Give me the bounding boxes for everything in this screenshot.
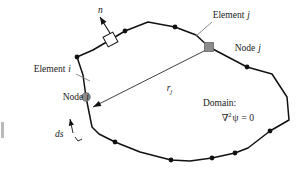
bem-domain-figure: n Elementi Elementj Nodei Nodej ds rj Do… xyxy=(0,0,307,169)
normal-vector-arrowhead xyxy=(100,17,106,25)
r-vector xyxy=(93,50,206,107)
boundary-node-dot xyxy=(233,151,238,156)
element-i-label-index: i xyxy=(68,64,71,74)
element-j-label-text: Element xyxy=(213,10,245,20)
laplacian-field: ψ xyxy=(233,113,239,123)
element-j-leader-line xyxy=(196,22,212,36)
boundary-node-dot xyxy=(173,25,178,30)
laplacian-power: 2 xyxy=(228,111,231,118)
node-i-label-text: Node xyxy=(63,92,84,102)
normal-vector-label: n xyxy=(98,5,103,15)
boundary-node-dot xyxy=(245,65,250,70)
node-j-label-index: j xyxy=(256,43,261,53)
r-vector-label: rj xyxy=(150,83,184,96)
boundary-node-dot xyxy=(113,140,118,145)
boundary-node-dot xyxy=(210,156,215,161)
node-j-label-text: Node xyxy=(235,43,256,53)
r-vector-line xyxy=(93,50,206,107)
governing-equation-label: ∇2ψ= 0 xyxy=(205,111,266,123)
page-edge-artifact xyxy=(1,122,4,138)
ds-tick-bracket xyxy=(75,137,82,141)
normal-vector xyxy=(100,17,118,47)
ds-indicator xyxy=(69,119,82,141)
boundary-node-dot xyxy=(123,29,128,34)
domain-label: Domain: xyxy=(203,98,236,108)
r-vector-label-index: j xyxy=(169,88,172,96)
node-i-label-index: i xyxy=(86,92,89,102)
node-i-label: Nodei xyxy=(46,92,101,102)
laplacian-equals: = 0 xyxy=(241,113,254,123)
boundary-node-dot xyxy=(169,158,174,163)
boundary-node-dot xyxy=(268,129,273,134)
element-j-label-index: j xyxy=(245,10,250,20)
boundary-node-dot xyxy=(75,55,80,60)
element-i-label-text: Element xyxy=(34,64,66,74)
ds-arrowhead xyxy=(69,119,74,126)
node-j-marker[interactable] xyxy=(205,43,214,52)
perpendicular-marker-icon xyxy=(103,32,118,47)
diagram-canvas: n Elementi Elementj Nodei Nodej ds rj Do… xyxy=(0,0,307,169)
element-i-label: Elementi xyxy=(17,64,83,74)
ds-label: ds xyxy=(55,129,64,139)
node-j-label: Nodej xyxy=(218,43,273,53)
element-j-label: Elementj xyxy=(196,10,262,20)
